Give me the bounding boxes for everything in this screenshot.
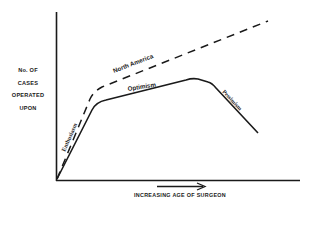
y-axis-label-line: OPERATED [0, 89, 56, 102]
annotation-pessimism: Pessimism [221, 89, 243, 112]
y-axis-label-line: No. OF [0, 64, 56, 77]
y-axis-label-line: CASES [0, 77, 56, 90]
x-axis-arrow-icon [157, 183, 205, 190]
y-axis-label: No. OF CASES OPERATED UPON [0, 64, 56, 114]
y-axis-label-line: UPON [0, 102, 56, 115]
annotation-north-america: North America [112, 52, 155, 74]
x-axis-label: INCREASING AGE OF SURGEON [110, 192, 250, 198]
